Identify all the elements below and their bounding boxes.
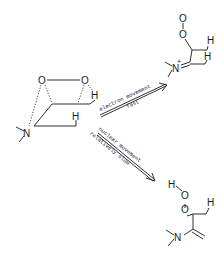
atom-n: N	[23, 128, 30, 139]
arrow-nuclear-movement: nuclear movement relatively slow	[88, 123, 155, 181]
charge-plus: +	[177, 58, 181, 65]
atom-h-1: H	[207, 197, 214, 208]
reaction-diagram: O O H H N electron movement fast nuclear…	[0, 0, 224, 262]
transition-state-structure: O O H H N	[16, 75, 98, 142]
product-lower-structure: H O O H N	[166, 179, 214, 246]
atom-o-2: O	[181, 204, 189, 215]
label-electron-movement: electron movement	[98, 83, 152, 113]
atom-h-mid: H	[72, 111, 79, 122]
atom-o-left: O	[38, 75, 46, 86]
atom-h-hydroperoxy: H	[168, 179, 175, 190]
arrow-electron-movement: electron movement fast	[98, 83, 167, 121]
atom-o-right: O	[81, 75, 89, 86]
atom-h-top: H	[91, 90, 98, 101]
atom-h-1: H	[207, 35, 214, 46]
atom-o-top: O	[179, 13, 187, 24]
product-upper-structure: O O H H N +	[165, 13, 214, 77]
atom-h-2: H	[204, 51, 211, 62]
atom-o-1: O	[181, 190, 189, 201]
atom-o-second: O	[179, 29, 187, 40]
atom-n: N	[174, 232, 181, 243]
